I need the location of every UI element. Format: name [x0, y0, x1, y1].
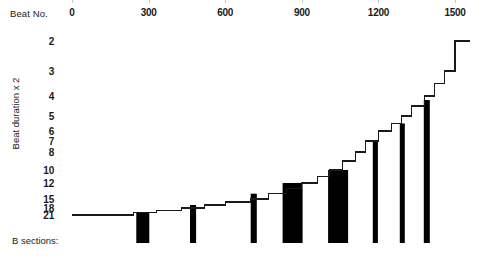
b-section-bar — [328, 170, 348, 243]
x-tick-mark — [225, 0, 226, 3]
b-section-bar — [400, 124, 405, 244]
b-section-bars — [136, 100, 430, 243]
step-chart-figure: Beat No. 030060090012001500 234567810121… — [0, 0, 484, 262]
x-tick-mark — [378, 0, 379, 3]
plot-area — [0, 0, 484, 262]
b-section-bar — [283, 183, 303, 243]
x-tick-mark — [302, 0, 303, 3]
b-section-bar — [136, 213, 149, 243]
step-line-series — [72, 41, 470, 215]
b-section-bar — [251, 194, 257, 243]
b-section-bar — [190, 205, 196, 243]
x-tick-mark — [455, 0, 456, 3]
b-section-bar — [424, 100, 430, 243]
x-tick-mark — [72, 0, 73, 3]
b-section-bar — [373, 141, 378, 243]
x-tick-mark — [149, 0, 150, 3]
